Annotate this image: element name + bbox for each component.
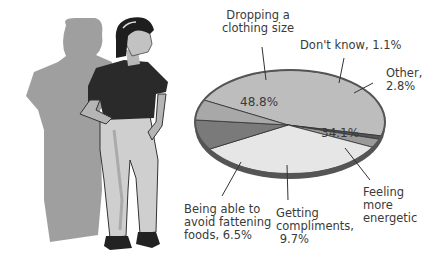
label-other: Other, 2.8% [386,67,422,93]
label-dropping: Dropping a clothing size [222,9,294,35]
label-compliments: Getting compliments, 9.7% [276,207,354,246]
pct-dropping: 48.8% [240,95,278,109]
label-dontknow: Don't know, 1.1% [300,39,401,52]
label-avoid: Being able to avoid fattening foods, 6.5… [184,203,271,242]
pct-energetic: 34.1% [321,126,359,140]
label-energetic: Feeling more energetic [363,186,417,225]
